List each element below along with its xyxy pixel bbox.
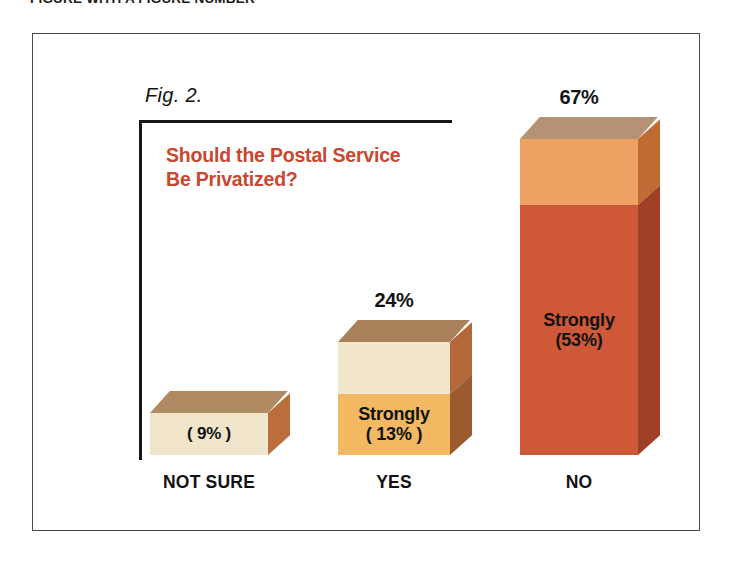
bar-chart: Should the Postal Service Be Privatized?… [120, 100, 700, 500]
bar-body: ( 9% ) [150, 413, 268, 455]
bar-segment-somewhat [338, 342, 450, 394]
category-label-yes: YES [338, 472, 450, 493]
bar-segment-label: Strongly ( 13% ) [358, 404, 429, 444]
bar-side-segment [638, 185, 660, 455]
bar-value-label: 67% [520, 86, 638, 109]
bar-segment-total: ( 9% ) [150, 413, 268, 455]
bar-value-label: 24% [338, 289, 450, 312]
bar-segment-strongly: Strongly (53%) [520, 205, 638, 455]
bar-front-face: Strongly ( 13% ) [338, 342, 450, 455]
axis-left-rule [139, 120, 142, 460]
bar-top-face [150, 391, 288, 413]
bar-segment-label: Strongly (53%) [543, 310, 614, 350]
bar-front-face: Strongly (53%) [520, 139, 638, 455]
category-label-not-sure: NOT SURE [150, 472, 268, 493]
page-caption: FIGURE WITH A FIGURE NUMBER [30, 0, 255, 6]
bar-segment-label: ( 9% ) [187, 424, 231, 443]
bar-front-face: ( 9% ) [150, 413, 268, 455]
category-label-no: NO [520, 472, 638, 493]
axis-top-rule [139, 120, 452, 123]
bar-side-face [450, 322, 472, 455]
bar-body: Strongly (53%) [520, 139, 638, 455]
bar-top-face [338, 320, 470, 342]
bar-segment-somewhat [520, 139, 638, 205]
bar-segment-strongly: Strongly ( 13% ) [338, 394, 450, 455]
bar-side-face [638, 119, 660, 455]
bar-top-face [520, 117, 658, 139]
chart-title: Should the Postal Service Be Privatized? [166, 144, 401, 192]
bar-body: Strongly ( 13% ) [338, 342, 450, 455]
